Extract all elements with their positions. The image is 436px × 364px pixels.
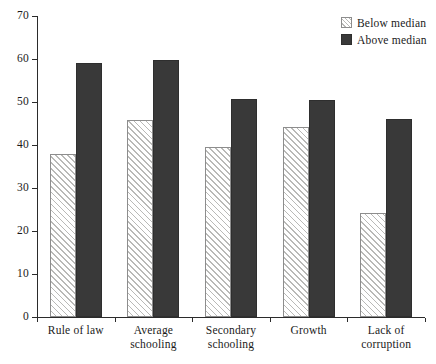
- x-axis-label-growth: Growth: [270, 324, 348, 338]
- y-axis-tick-label: 60: [17, 53, 29, 65]
- x-axis-label-line: schooling: [192, 338, 270, 352]
- bar-below-median: [360, 213, 386, 317]
- x-axis-tick: [425, 318, 426, 322]
- bar-above-median: [76, 63, 102, 317]
- x-axis-tick: [115, 318, 116, 322]
- legend-item-above-median: Above median: [341, 32, 427, 47]
- bar-chart: 010203040506070 Rule of lawAverageschool…: [0, 0, 436, 364]
- x-axis-label-rule-of-law: Rule of law: [37, 324, 115, 338]
- y-axis-tick-label: 70: [17, 10, 29, 22]
- legend-item-below-median: Below median: [341, 15, 427, 30]
- plot-area: [37, 16, 425, 317]
- y-axis-tick-label: 40: [17, 139, 29, 151]
- x-axis-label-average-schooling: Averageschooling: [115, 324, 193, 351]
- bar-below-median: [205, 147, 231, 317]
- bar-above-median: [231, 99, 257, 317]
- bar-below-median: [50, 154, 76, 317]
- x-axis-tick: [270, 318, 271, 322]
- hatched-square-icon: [341, 17, 352, 28]
- x-axis-label-line: corruption: [347, 338, 425, 352]
- x-axis-label-secondary-schooling: Secondaryschooling: [192, 324, 270, 351]
- legend-label-above-median: Above median: [357, 33, 427, 47]
- x-axis-label-lack-of-corruption: Lack ofcorruption: [347, 324, 425, 351]
- x-axis-label-line: Secondary: [192, 324, 270, 338]
- y-axis-tick-label: 0: [23, 311, 29, 323]
- chart-legend: Below median Above median: [341, 15, 427, 49]
- bar-above-median: [153, 60, 179, 317]
- bar-above-median: [386, 119, 412, 317]
- y-axis-tick-label: 10: [17, 268, 29, 280]
- y-axis-tick-label: 30: [17, 182, 29, 194]
- y-axis-tick-label: 20: [17, 225, 29, 237]
- x-axis-label-line: schooling: [115, 338, 193, 352]
- bar-below-median: [283, 127, 309, 317]
- x-axis-label-line: Average: [115, 324, 193, 338]
- x-axis-tick: [37, 318, 38, 322]
- bar-above-median: [309, 100, 335, 317]
- filled-square-icon: [341, 34, 352, 45]
- x-axis-line: [37, 317, 425, 318]
- legend-label-below-median: Below median: [357, 16, 426, 30]
- x-axis-tick: [192, 318, 193, 322]
- x-axis-label-line: Rule of law: [37, 324, 115, 338]
- x-axis-tick: [347, 318, 348, 322]
- bar-below-median: [127, 120, 153, 317]
- x-axis-label-line: Growth: [270, 324, 348, 338]
- x-axis-label-line: Lack of: [347, 324, 425, 338]
- y-axis-tick-label: 50: [17, 96, 29, 108]
